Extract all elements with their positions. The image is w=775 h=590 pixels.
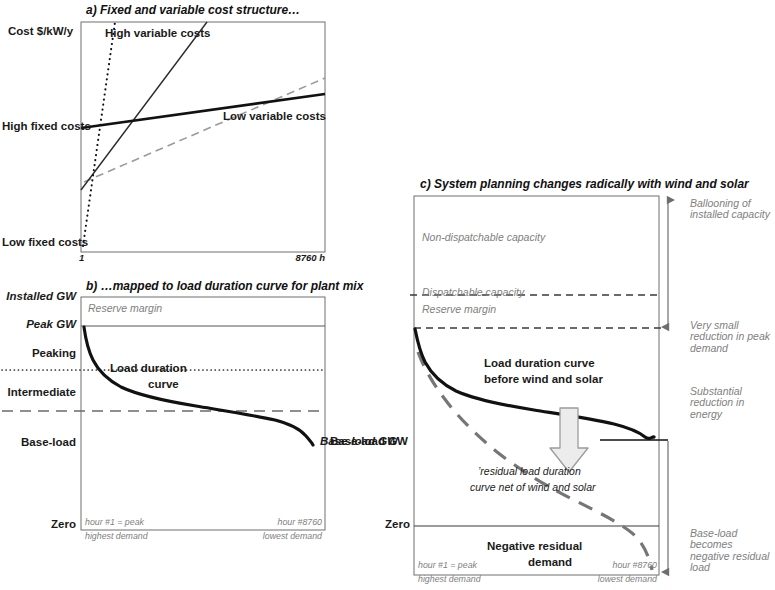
panel-a-graphics — [81, 22, 325, 252]
panel-c-reserve-margin-label: Reserve margin — [422, 304, 496, 315]
panel-a-low-fixed-costs-label: Low fixed costs — [2, 236, 88, 248]
panel-a-thin-solid-line — [81, 22, 207, 190]
panel-b-label-baseload: Base-load — [0, 436, 76, 448]
panel-c-curve-label-line1: Load duration curve — [484, 357, 595, 369]
panel-c-label-baseload: Base-load GW — [320, 435, 392, 447]
panel-a-title: a) Fixed and variable cost structure… — [86, 4, 300, 17]
panel-a-x-min-label: 1 — [79, 253, 84, 263]
panel-b-label-installed: Installed GW — [0, 290, 76, 302]
panel-a-low-variable-costs-label: Low variable costs — [223, 110, 326, 122]
panel-b-curve-label-line1: Load duration — [110, 362, 187, 374]
panel-c-frame — [414, 196, 659, 575]
callout-baseload-becomes-negative: Base-load becomes negative residual load — [690, 528, 775, 573]
panel-c-x-right-top: hour #8760 — [575, 561, 657, 571]
panel-c-x-left-bottom: highest demand — [418, 575, 481, 585]
panel-c-title: c) System planning changes radically wit… — [420, 178, 749, 191]
energy-reduction-down-arrow — [550, 408, 588, 472]
panel-b-label-peak: Peak GW — [0, 318, 76, 330]
panel-c-negative-label-line1: Negative residual — [487, 540, 582, 552]
panel-a-frame — [81, 22, 325, 252]
panel-a-dotted-line — [83, 22, 115, 246]
panel-b-label-zero: Zero — [0, 518, 76, 530]
panel-b-frame — [81, 297, 325, 530]
figure-canvas: a) Fixed and variable cost structure… Co… — [0, 0, 775, 590]
panel-c-non-dispatchable-label: Non-dispatchable capacity — [422, 232, 545, 243]
panel-c-x-right-bottom: lowest demand — [565, 575, 657, 585]
callout-ballooning-capacity: Ballooning of installed capacity — [690, 198, 772, 221]
panel-c-negative-label-line2: demand — [528, 556, 572, 568]
panel-b-label-intermediate: Intermediate — [0, 386, 76, 398]
panel-b-load-duration-curve — [84, 327, 313, 445]
panel-c-residual-label-line2: curve net of wind and solar — [470, 482, 596, 493]
panel-c-residual-label-line1: ’residual load duration — [478, 466, 581, 477]
panel-b-x-right-bottom: lowest demand — [230, 532, 322, 542]
panel-b-label-peaking: Peaking — [0, 347, 76, 359]
panel-b-title: b) …mapped to load duration curve for pl… — [86, 280, 363, 293]
panel-b-x-right-top: hour #8760 — [240, 518, 322, 528]
callout-substantial-energy-reduction: Substantial reduction in energy — [690, 386, 772, 420]
panel-b-graphics — [2, 297, 325, 530]
callout-very-small-peak-reduction: Very small reduction in peak demand — [690, 320, 772, 354]
panel-c-curve-label-line2: before wind and solar — [484, 373, 603, 385]
figure-vector-layer — [0, 0, 775, 590]
panel-c-dispatchable-label: Dispatchable capacity — [422, 287, 524, 298]
panel-c-graphics — [410, 196, 668, 575]
panel-b-x-left-top: hour #1 = peak — [85, 518, 144, 528]
panel-a-dashed-gray-line — [84, 78, 325, 182]
panel-c-x-left-top: hour #1 = peak — [418, 561, 477, 571]
panel-b-curve-label-line2: curve — [148, 378, 179, 390]
panel-a-high-fixed-costs-label: High fixed costs — [2, 120, 91, 132]
panel-a-high-variable-costs-label: High variable costs — [105, 27, 210, 39]
panel-c-label-zero: Zero — [350, 518, 410, 530]
panel-a-y-axis-label: Cost $/kW/y — [8, 25, 73, 37]
panel-b-reserve-margin-label: Reserve margin — [88, 303, 162, 314]
panel-b-x-left-bottom: highest demand — [85, 532, 148, 542]
panel-a-x-max-label: 8760 h — [275, 253, 325, 263]
